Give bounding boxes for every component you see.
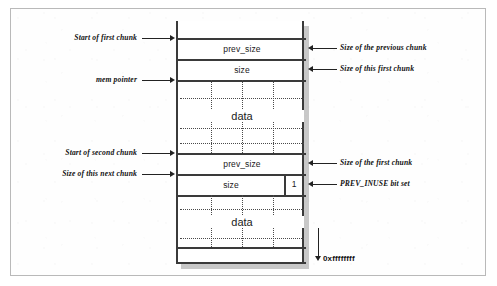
leader-size-previous-chunk bbox=[313, 48, 337, 49]
data-region-label-second-text: data bbox=[228, 216, 255, 228]
callout-size-previous-chunk: Size of the previous chunk bbox=[340, 43, 427, 52]
arrow-mem-pointer bbox=[170, 77, 175, 83]
leader-start-first-chunk bbox=[142, 38, 170, 39]
rule-column-bottom bbox=[178, 262, 306, 264]
prev-inuse-flag-cell: 1 bbox=[284, 174, 302, 195]
leader-mem-pointer bbox=[142, 80, 170, 81]
leader-high-address bbox=[318, 228, 319, 258]
arrow-size-next-chunk bbox=[170, 171, 175, 177]
rule-start-first-chunk bbox=[178, 38, 306, 40]
data-grid-first-chunk: data bbox=[180, 80, 304, 153]
callout-size-next-chunk: Size of this next chunk bbox=[0, 169, 137, 178]
field-prev-size-first: prev_size bbox=[178, 44, 306, 54]
field-size-second: size bbox=[178, 180, 284, 190]
callout-size-first-chunk: Size of the first chunk bbox=[340, 158, 412, 167]
rule-bottom-gap bbox=[178, 247, 306, 249]
data-region-label-second: data bbox=[180, 216, 304, 228]
arrow-start-second-chunk bbox=[170, 150, 175, 156]
arrow-start-first-chunk bbox=[170, 35, 175, 41]
column-body: prev_size size data prev_size size 1 bbox=[176, 21, 304, 264]
callout-prev-inuse-bit-set: PREV_INUSE bit set bbox=[340, 179, 410, 188]
label-high-address: 0xffffffff bbox=[323, 254, 355, 263]
leader-size-this-first-chunk bbox=[313, 69, 337, 70]
leader-size-next-chunk bbox=[142, 174, 170, 175]
figure-page: prev_size size data prev_size size 1 bbox=[0, 0, 497, 286]
data-region-label-first-text: data bbox=[228, 110, 255, 122]
memory-layout-column: prev_size size data prev_size size 1 bbox=[176, 21, 304, 264]
leader-start-second-chunk bbox=[142, 153, 170, 154]
rule-start-second-chunk bbox=[178, 153, 306, 155]
data-region-label-first: data bbox=[180, 110, 304, 122]
field-prev-size-second: prev_size bbox=[178, 159, 306, 169]
callout-mem-pointer: mem pointer bbox=[0, 75, 137, 84]
field-size-first: size bbox=[178, 65, 306, 75]
callout-size-this-first-chunk: Size of this first chunk bbox=[340, 64, 414, 73]
callout-start-first-chunk: Start of first chunk bbox=[0, 33, 137, 42]
leader-size-first-chunk bbox=[313, 163, 337, 164]
data-grid-second-chunk: data bbox=[180, 195, 304, 247]
callout-start-second-chunk: Start of second chunk bbox=[0, 148, 137, 157]
rule-below-prev-size-1 bbox=[178, 59, 306, 61]
leader-prev-inuse-bit-set bbox=[313, 184, 337, 185]
arrow-high-address bbox=[315, 256, 321, 261]
